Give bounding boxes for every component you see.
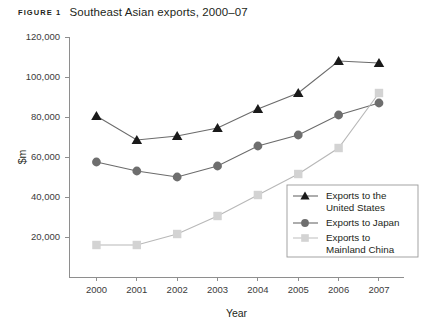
- square-marker: [213, 212, 221, 220]
- square-marker: [92, 241, 100, 249]
- x-tick-label: 2004: [247, 284, 268, 295]
- circle-marker: [334, 111, 343, 120]
- triangle-marker: [212, 123, 223, 132]
- legend-label-continued: Mainland China: [326, 244, 395, 255]
- x-tick-label: 2003: [207, 284, 228, 295]
- circle-marker: [253, 142, 262, 151]
- square-marker: [375, 89, 383, 97]
- legend-label: Exports to Japan: [326, 217, 400, 228]
- y-tick-group: 20,00040,00060,00080,000100,000120,000: [26, 31, 69, 242]
- x-tick-label: 2007: [368, 284, 389, 295]
- y-axis-title: $m: [16, 149, 28, 164]
- y-tick-label: 80,000: [31, 111, 60, 122]
- series-line: [96, 61, 379, 140]
- square-marker: [294, 170, 302, 178]
- circle-marker: [375, 99, 384, 108]
- triangle-marker: [333, 56, 344, 65]
- y-tick-label: 120,000: [26, 31, 60, 42]
- circle-marker: [132, 167, 141, 176]
- square-marker: [334, 144, 342, 152]
- x-tick-group: 20002001200220032004200520062007: [86, 277, 390, 295]
- triangle-marker: [253, 104, 264, 113]
- circle-marker: [173, 173, 182, 182]
- circle-marker: [92, 158, 101, 167]
- y-tick-label: 60,000: [31, 151, 60, 162]
- circle-marker: [301, 219, 309, 227]
- figure-container: FIGURE 1Southeast Asian exports, 2000–07…: [0, 0, 424, 325]
- legend-label: Exports to the: [326, 190, 387, 201]
- chart-plot-area: 20,00040,00060,00080,000100,000120,000 2…: [0, 0, 424, 325]
- circle-marker: [213, 162, 222, 171]
- legend-label: Exports to: [326, 232, 371, 243]
- triangle-marker: [293, 88, 304, 97]
- square-marker: [254, 191, 262, 199]
- square-marker: [301, 234, 309, 242]
- x-tick-label: 2005: [288, 284, 309, 295]
- y-tick-label: 20,000: [31, 231, 60, 242]
- x-axis-title: Year: [226, 307, 248, 319]
- legend-label-continued: United States: [326, 202, 385, 213]
- circle-marker: [294, 131, 303, 140]
- triangle-marker: [91, 111, 102, 120]
- chart-legend: Exports to theUnited StatesExports to Ja…: [287, 185, 418, 257]
- x-tick-label: 2001: [126, 284, 147, 295]
- square-marker: [173, 230, 181, 238]
- x-tick-label: 2006: [328, 284, 349, 295]
- x-tick-label: 2002: [167, 284, 188, 295]
- series-triangle: [91, 56, 384, 144]
- x-tick-label: 2000: [86, 284, 107, 295]
- y-tick-label: 100,000: [26, 71, 60, 82]
- exports-line-chart: 20,00040,00060,00080,000100,000120,000 2…: [0, 0, 424, 325]
- square-marker: [133, 241, 141, 249]
- y-tick-label: 40,000: [31, 191, 60, 202]
